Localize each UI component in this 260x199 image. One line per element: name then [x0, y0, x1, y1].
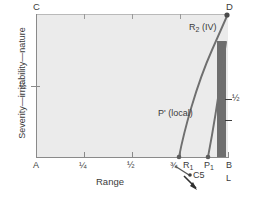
marker-d: [224, 12, 229, 17]
r2-tail: (IV): [199, 22, 216, 32]
curve-label-p-local: P' (local): [158, 108, 193, 118]
c5-dot: [188, 173, 192, 177]
figure-chart: Severity—irritability—nature ½ C D A ¼ ½…: [0, 0, 260, 199]
annotation-label-c5: C5: [193, 170, 205, 180]
r2-text: R: [189, 22, 196, 32]
curves-overlay: [0, 0, 260, 199]
r2-subscript: 2: [196, 26, 200, 33]
c5-leader-line: [175, 166, 189, 175]
marker-p1: [206, 155, 211, 160]
curve-label-r2-iv: R2 (IV): [189, 22, 216, 33]
curve-p-local: [208, 42, 226, 157]
marker-r1: [177, 155, 182, 160]
